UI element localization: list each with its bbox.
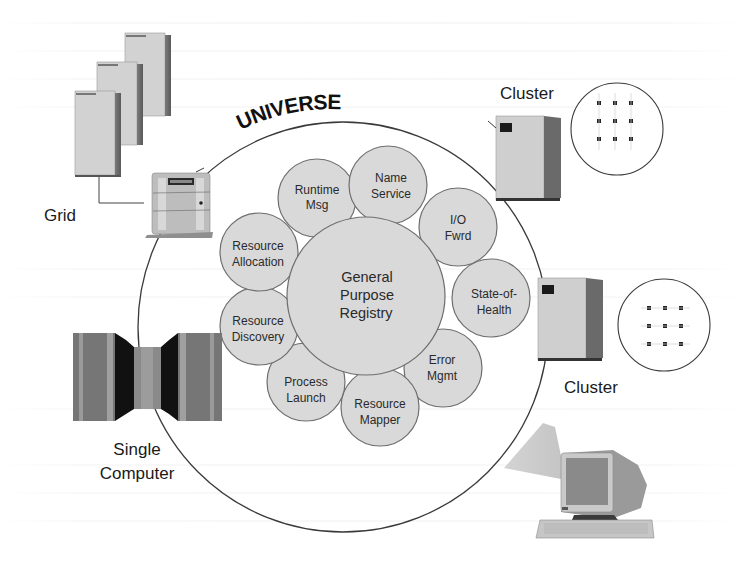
registry-label-1: General (341, 269, 393, 285)
state-of-health-label-2: Health (477, 303, 512, 317)
single-computer-label-line1: Single (82, 440, 192, 460)
cluster-top-label: Cluster (494, 84, 560, 104)
cluster-bottom-server-icon (538, 278, 603, 361)
grid-gateway-server-icon (145, 173, 213, 238)
state-of-health-label-1: State-of- (471, 287, 517, 301)
resource-allocation-label-1: Resource (232, 239, 284, 253)
universe-diagram: UNIVERSE Runtime Msg Name Service I/O Fw… (0, 0, 742, 565)
resource-mapper-label-2: Mapper (360, 413, 401, 427)
error-mgmt-label-1: Error (429, 353, 456, 367)
svg-text:UNIVERSE: UNIVERSE (232, 89, 345, 135)
grid-label: Grid (38, 206, 82, 226)
runtime-msg-label-1: Runtime (295, 183, 340, 197)
bubble-name-service (349, 146, 427, 224)
cluster-bottom-nodes-icon (618, 279, 710, 371)
cluster-bottom-label: Cluster (558, 378, 624, 398)
name-service-label-2: Service (371, 187, 411, 201)
single-computer-icon (73, 333, 222, 421)
resource-discovery-label-1: Resource (232, 314, 284, 328)
grid-servers-icon (75, 33, 171, 177)
cluster-top-nodes-icon (571, 83, 663, 175)
io-fwrd-label-2: Fwrd (445, 229, 472, 243)
grid-ring-link (196, 168, 204, 172)
io-fwrd-label-1: I/O (450, 213, 466, 227)
registry-label-2: Purpose (340, 287, 394, 303)
resource-mapper-label-1: Resource (354, 397, 406, 411)
cluster-top-ring-link (488, 121, 496, 128)
name-service-label-1: Name (375, 171, 407, 185)
registry-label-3: Registry (339, 305, 393, 321)
runtime-msg-label-2: Msg (306, 198, 329, 212)
error-mgmt-label-2: Mgmt (427, 369, 458, 383)
cluster-top-server-icon (496, 116, 561, 201)
resource-discovery-label-2: Discovery (232, 330, 285, 344)
process-launch-label-2: Launch (286, 391, 325, 405)
resource-allocation-label-2: Allocation (232, 255, 284, 269)
single-computer-label-line2: Computer (82, 464, 192, 484)
process-launch-label-1: Process (284, 375, 327, 389)
universe-title: UNIVERSE (232, 89, 345, 135)
grid-connector-line (99, 177, 144, 203)
monitor-beam (504, 423, 566, 480)
